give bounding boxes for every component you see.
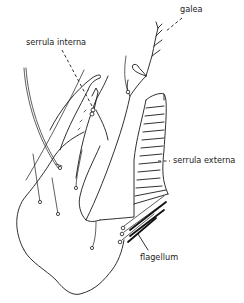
serrula-externa bbox=[134, 93, 168, 204]
label-flagellum: flagellum bbox=[140, 252, 178, 262]
basal-segment bbox=[17, 132, 124, 294]
chelicera-diagram: galea serrula interna serrula externa fl… bbox=[0, 0, 244, 303]
label-galea: galea bbox=[180, 4, 203, 14]
seta-6 bbox=[92, 222, 96, 248]
leader-flagellum bbox=[138, 234, 148, 250]
leader-serrula-interna bbox=[62, 50, 92, 106]
digit bbox=[86, 22, 162, 220]
leader-galea bbox=[165, 18, 182, 32]
seta-3 bbox=[33, 154, 40, 202]
seta-1 bbox=[24, 68, 58, 168]
flagellum bbox=[118, 196, 166, 244]
label-serrula-externa: serrula externa bbox=[173, 155, 235, 165]
serrula-interna-region bbox=[50, 75, 108, 178]
label-serrula-interna: serrula interna bbox=[26, 37, 86, 47]
seta-5 bbox=[76, 150, 82, 188]
seta-4 bbox=[52, 178, 58, 214]
